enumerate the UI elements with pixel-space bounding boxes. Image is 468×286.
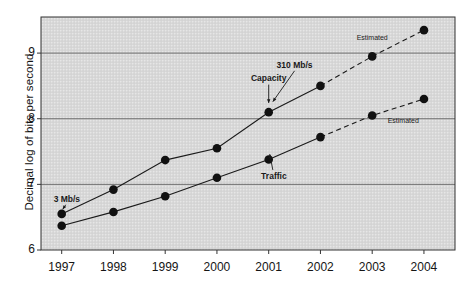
data-point	[368, 111, 377, 120]
x-tick-2004: 2004	[396, 260, 452, 274]
data-point	[57, 221, 66, 230]
traffic-label: Traffic	[261, 171, 287, 181]
data-point	[316, 133, 325, 142]
data-point	[316, 82, 325, 91]
rate-label-3: 3 Mb/s	[54, 194, 80, 204]
x-tick-2002: 2002	[292, 260, 348, 274]
data-point	[420, 95, 429, 104]
data-point	[213, 144, 222, 153]
data-point	[161, 192, 170, 201]
data-point	[368, 52, 377, 61]
rate-label-310: 310 Mb/s	[277, 60, 313, 70]
data-point	[57, 210, 66, 219]
estimated-label-upper: Estimated	[357, 33, 388, 40]
data-point	[109, 185, 118, 194]
chart-figure: Decimal log of bits per second 6789 1997…	[0, 0, 468, 286]
x-tick-1997: 1997	[34, 260, 90, 274]
x-tick-2000: 2000	[189, 260, 245, 274]
y-tick-7: 7	[17, 176, 35, 190]
data-point	[109, 208, 118, 217]
data-point	[420, 26, 429, 35]
estimated-label-lower: Estimated	[388, 117, 419, 124]
data-point	[264, 108, 273, 117]
y-tick-9: 9	[17, 45, 35, 59]
x-tick-2001: 2001	[241, 260, 297, 274]
y-tick-8: 8	[17, 111, 35, 125]
plot-canvas	[0, 0, 468, 286]
x-tick-2003: 2003	[344, 260, 400, 274]
y-tick-6: 6	[17, 242, 35, 256]
x-tick-1999: 1999	[137, 260, 193, 274]
x-tick-1998: 1998	[85, 260, 141, 274]
capacity-label: Capacity	[251, 73, 286, 83]
data-point	[161, 156, 170, 165]
data-point	[213, 174, 222, 183]
